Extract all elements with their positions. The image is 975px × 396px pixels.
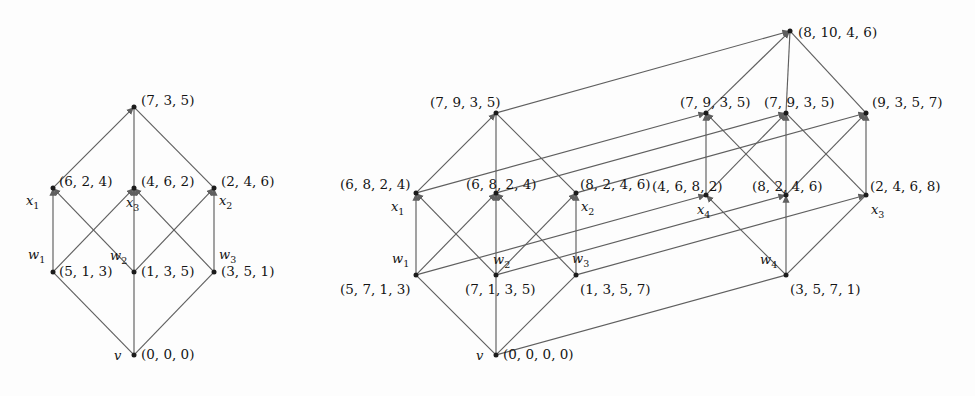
node-x1-dot xyxy=(51,186,56,191)
node-top-back-dot xyxy=(864,111,869,116)
node-v-tuple-label: (0, 0, 0) xyxy=(141,348,194,362)
node-top-front-dot xyxy=(494,111,499,116)
node-w2-var-label: w2 xyxy=(493,253,510,269)
node-x1-dot xyxy=(414,191,419,196)
node-top-front-tuple-label: (7, 9, 3, 5) xyxy=(430,96,501,110)
node-x4-tuple-label: (4, 6, 8, 2) xyxy=(652,180,723,194)
node-x3-tuple-label: (2, 4, 6, 8) xyxy=(870,180,941,194)
edge-right-w4-x3 xyxy=(788,197,865,274)
node-x3-dot xyxy=(132,186,137,191)
node-x3-tuple-label: (4, 6, 2) xyxy=(141,175,194,189)
node-w2-dot xyxy=(132,270,137,275)
node-top-tuple-label: (7, 3, 5) xyxy=(141,94,194,108)
node-w3-var-label: w3 xyxy=(572,252,589,268)
node-apex-tuple-label: (8, 10, 4, 6) xyxy=(798,26,877,40)
node-x1-var-label: x1 xyxy=(391,200,404,216)
edge-left-v-w3 xyxy=(136,274,213,354)
node-mid-right-tuple-label: (8, 2, 4, 6) xyxy=(752,180,823,194)
node-w1-var-label: w1 xyxy=(392,252,409,268)
node-x1-tuple-label: (6, 2, 4) xyxy=(59,175,112,189)
node-top-mid-right-tuple-label: (7, 9, 3, 5) xyxy=(764,96,835,110)
node-w2-var-label: w2 xyxy=(110,249,127,265)
node-w3-dot xyxy=(212,270,217,275)
node-v-tuple-label: (0, 0, 0, 0) xyxy=(503,348,574,362)
node-x2-var-label: x2 xyxy=(581,200,594,216)
node-x1-tuple-label: (6, 8, 2, 4) xyxy=(340,178,411,192)
node-w2-tuple-label: (7, 1, 3, 5) xyxy=(465,283,536,297)
node-w4-var-label: w4 xyxy=(760,253,777,269)
node-top-dot xyxy=(132,105,137,110)
figure-canvas: (0, 0, 0)v(5, 1, 3)w1(1, 3, 5)w2(3, 5, 1… xyxy=(0,0,975,396)
node-w1-dot xyxy=(51,270,56,275)
node-mid-left-tuple-label: (6, 8, 2, 4) xyxy=(466,178,537,192)
node-x4-var-label: x4 xyxy=(697,203,710,219)
node-x2-var-label: x2 xyxy=(219,194,232,210)
node-w1-var-label: w1 xyxy=(28,248,45,264)
node-w1-tuple-label: (5, 7, 1, 3) xyxy=(340,283,411,297)
node-x3-dot xyxy=(864,193,869,198)
edge-layer xyxy=(0,0,975,396)
node-x2-tuple-label: (8, 2, 4, 6) xyxy=(580,178,651,192)
edge-right-w2-m2 xyxy=(498,196,783,275)
edge-right-w3-x3 xyxy=(578,196,863,275)
edge-right-w1-x4 xyxy=(418,196,703,275)
node-w4-tuple-label: (3, 5, 7, 1) xyxy=(790,283,861,297)
node-v-dot xyxy=(132,353,137,358)
node-v-dot xyxy=(494,353,499,358)
node-v-var-label: v xyxy=(476,349,483,362)
node-x2-dot xyxy=(212,186,217,191)
node-w1-tuple-label: (5, 1, 3) xyxy=(59,265,112,279)
node-w3-tuple-label: (3, 5, 1) xyxy=(221,265,274,279)
node-top-mid-left-tuple-label: (7, 9, 3, 5) xyxy=(680,96,751,110)
node-v-var-label: v xyxy=(114,349,121,362)
node-apex-dot xyxy=(788,29,793,34)
node-w4-dot xyxy=(784,273,789,278)
node-x3-var-label: x3 xyxy=(871,203,884,219)
edge-left-v-w1 xyxy=(55,274,133,354)
node-w3-var-label: w3 xyxy=(219,248,236,264)
node-top-mid-left-dot xyxy=(704,111,709,116)
node-w3-dot xyxy=(574,273,579,278)
node-x2-dot xyxy=(574,191,579,196)
node-x2-tuple-label: (2, 4, 6) xyxy=(221,175,274,189)
node-w2-dot xyxy=(494,273,499,278)
node-w3-tuple-label: (1, 3, 5, 7) xyxy=(580,283,651,297)
node-w1-dot xyxy=(414,273,419,278)
node-top-back-tuple-label: (9, 3, 5, 7) xyxy=(872,96,943,110)
node-x3-var-label: x3 xyxy=(126,196,139,212)
node-top-mid-right-dot xyxy=(784,111,789,116)
node-x1-var-label: x1 xyxy=(26,194,39,210)
node-w2-tuple-label: (1, 3, 5) xyxy=(141,265,194,279)
